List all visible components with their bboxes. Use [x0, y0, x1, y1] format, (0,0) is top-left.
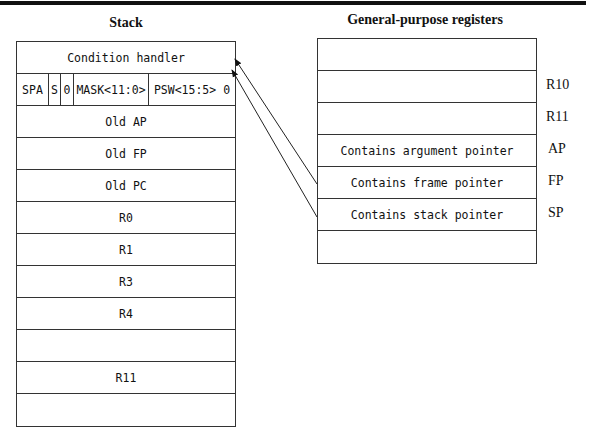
- fp-arrow: [235, 59, 317, 184]
- sp-arrow: [232, 70, 317, 217]
- pointer-arrows: [0, 0, 590, 433]
